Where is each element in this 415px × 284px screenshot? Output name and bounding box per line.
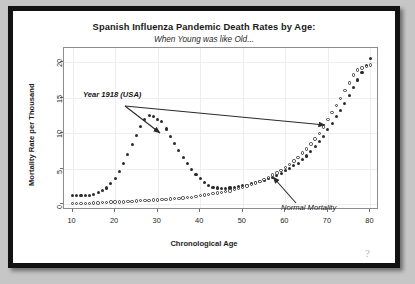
data-point [173, 142, 176, 145]
data-point [181, 196, 184, 199]
data-point [194, 195, 197, 198]
data-point [199, 194, 202, 197]
data-point [118, 200, 121, 203]
data-point [322, 125, 325, 128]
data-point [109, 200, 112, 203]
data-point [309, 150, 312, 153]
chart-canvas: Spanish Influenza Pandemic Death Rates b… [13, 11, 395, 263]
x-axis-tick-label: 30 [153, 216, 161, 225]
data-point [131, 143, 134, 146]
x-axis-tick [327, 209, 328, 212]
data-point [314, 145, 317, 148]
data-point [190, 196, 193, 199]
data-point [203, 181, 206, 184]
data-point [318, 140, 321, 143]
data-point [301, 158, 304, 161]
data-point [216, 191, 219, 194]
data-point [237, 187, 240, 190]
data-point [220, 187, 223, 190]
data-point [348, 81, 351, 84]
data-point [177, 149, 180, 152]
y-axis-tick [60, 168, 63, 169]
data-point [143, 118, 146, 121]
x-axis-tick [199, 209, 200, 212]
data-point [139, 125, 142, 128]
data-point [207, 184, 210, 187]
x-axis-tick-label: 60 [280, 216, 288, 225]
data-point [152, 115, 155, 118]
data-point [169, 135, 172, 138]
data-point [130, 200, 133, 203]
data-point [343, 102, 346, 105]
y-axis-tick-label: 20 [55, 59, 64, 67]
data-point [352, 73, 355, 76]
data-point [199, 177, 202, 180]
data-point [156, 118, 159, 121]
gridline-horizontal [64, 133, 377, 134]
data-point [182, 156, 185, 159]
data-point [348, 94, 351, 97]
data-point [113, 200, 116, 203]
data-point [148, 114, 151, 117]
data-point [96, 201, 99, 204]
framed-chart-border: Spanish Influenza Pandemic Death Rates b… [8, 6, 400, 268]
data-point [84, 194, 87, 197]
data-point [326, 128, 329, 131]
data-point [122, 162, 125, 165]
gridline-vertical [115, 48, 116, 208]
data-point [258, 180, 261, 183]
data-point [233, 188, 236, 191]
y-axis-tick-label: 10 [55, 130, 64, 138]
y-axis-title: Mortality Rate per Thousand [27, 83, 36, 186]
gridline-horizontal [64, 169, 377, 170]
data-point [292, 159, 295, 162]
data-point [186, 162, 189, 165]
gridline-vertical [370, 48, 371, 208]
data-point [297, 162, 300, 165]
data-point [79, 194, 82, 197]
data-point [343, 89, 346, 92]
data-point [160, 120, 163, 123]
data-point [284, 169, 287, 172]
y-axis-tick-label: 0 [55, 205, 64, 209]
annotation-year-1918: Year 1918 (USA) [83, 90, 141, 99]
data-point [224, 190, 227, 193]
data-point [288, 163, 291, 166]
data-point [101, 189, 104, 192]
data-point [165, 127, 168, 130]
gridline-vertical [285, 48, 286, 208]
y-axis-tick-label: 5 [55, 170, 64, 174]
plot-area [63, 47, 378, 209]
data-point [331, 122, 334, 125]
data-point [156, 198, 159, 201]
data-point [194, 173, 197, 176]
data-point [160, 198, 163, 201]
data-point [309, 142, 312, 145]
data-point [279, 169, 282, 172]
data-point [313, 137, 316, 140]
x-axis-tick-label: 40 [195, 216, 203, 225]
data-point [177, 197, 180, 200]
x-axis-tick-label: 70 [323, 216, 331, 225]
data-point [369, 63, 372, 66]
data-point [241, 186, 244, 189]
data-point [335, 104, 338, 107]
data-point [330, 111, 333, 114]
data-point [92, 193, 95, 196]
data-point [339, 97, 342, 100]
data-point [147, 199, 150, 202]
data-point [296, 156, 299, 159]
data-point [169, 197, 172, 200]
data-point [352, 86, 355, 89]
data-point [280, 172, 283, 175]
data-point [105, 186, 108, 189]
data-point [79, 202, 82, 205]
data-point [356, 68, 359, 71]
scan-artifact: ? [365, 247, 370, 259]
data-point [262, 178, 265, 181]
x-axis-tick [284, 209, 285, 212]
data-point [152, 198, 155, 201]
data-point [305, 147, 308, 150]
gridline-vertical [73, 48, 74, 208]
data-point [88, 194, 91, 197]
